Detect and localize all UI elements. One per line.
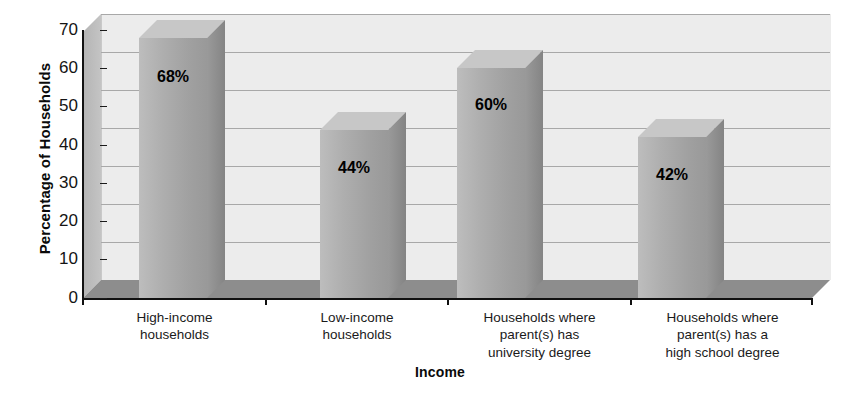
bar-value-2: 44% xyxy=(320,159,388,177)
x-category-label-2-line-1: Low-income xyxy=(266,309,448,326)
y-tick-label-20: 20 xyxy=(38,212,78,229)
bar-front-2 xyxy=(320,130,388,298)
x-tick-4 xyxy=(811,298,813,305)
y-axis-line xyxy=(82,30,84,300)
y-tick-label-60: 60 xyxy=(38,59,78,76)
x-category-label-2-line-2: households xyxy=(266,326,448,343)
x-category-label-3-line-1: Households where xyxy=(448,309,631,326)
x-tick-2 xyxy=(447,298,449,305)
x-tick-3 xyxy=(630,298,632,305)
x-axis-title: Income xyxy=(360,364,520,380)
y-axis-ticks: 70 60 50 40 30 20 10 0 xyxy=(22,0,78,394)
chart-root: Percentage of Households 42% 60% 44% 68% xyxy=(0,0,846,394)
x-tick-1 xyxy=(265,298,267,305)
x-category-label-2: Low-income households xyxy=(266,309,448,344)
x-category-label-3-line-3: university degree xyxy=(448,344,631,361)
bar-side-3 xyxy=(525,50,543,298)
x-category-label-1: High-income households xyxy=(83,309,266,344)
x-category-label-4-line-1: Households where xyxy=(631,309,814,326)
y-tick-label-10: 10 xyxy=(38,250,78,267)
y-tick-label-50: 50 xyxy=(38,97,78,114)
x-category-label-3-line-2: parent(s) has xyxy=(448,326,631,343)
y-tick-label-70: 70 xyxy=(38,21,78,38)
gridline-70 xyxy=(101,14,830,15)
x-category-label-1-line-2: households xyxy=(83,326,266,343)
x-category-label-4: Households where parent(s) has a high sc… xyxy=(631,309,814,361)
x-category-label-4-line-2: parent(s) has a xyxy=(631,326,814,343)
bar-side-2 xyxy=(388,112,406,298)
bar-front-4 xyxy=(638,137,706,298)
plot-left-wall xyxy=(83,14,101,298)
bar-side-1 xyxy=(207,20,225,298)
bar-value-4: 42% xyxy=(638,166,706,184)
x-category-label-4-line-3: high school degree xyxy=(631,344,814,361)
y-tick-label-40: 40 xyxy=(38,136,78,153)
bar-value-3: 60% xyxy=(457,96,525,114)
y-tick-label-0: 0 xyxy=(38,289,78,306)
x-tick-0 xyxy=(82,298,84,305)
bar-value-1: 68% xyxy=(139,68,207,86)
y-tick-label-30: 30 xyxy=(38,174,78,191)
bar-side-4 xyxy=(706,119,724,298)
x-category-label-1-line-1: High-income xyxy=(83,309,266,326)
x-category-label-3: Households where parent(s) has universit… xyxy=(448,309,631,361)
